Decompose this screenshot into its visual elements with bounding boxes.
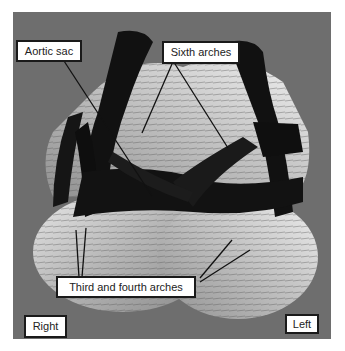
label-aortic-sac: Aortic sac — [16, 40, 82, 62]
label-third-fourth-arches: Third and fourth arches — [56, 276, 196, 298]
label-left: Left — [285, 314, 319, 334]
label-right: Right — [24, 315, 67, 338]
label-sixth-arches: Sixth arches — [162, 41, 240, 64]
